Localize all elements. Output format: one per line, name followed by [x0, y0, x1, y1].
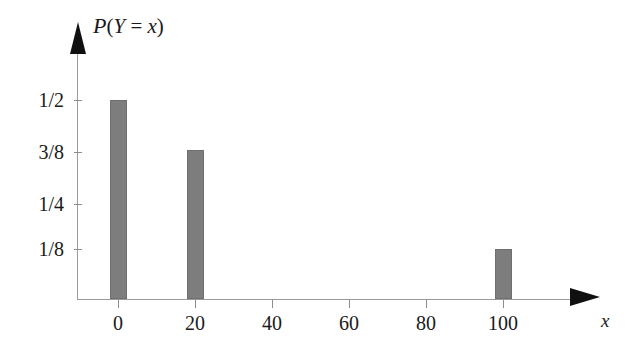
y-axis-title-script-p: P: [93, 13, 106, 38]
x-tick-label-20: 20: [165, 313, 225, 333]
y-axis-title: P(Y = x): [93, 15, 164, 37]
x-tick-label-100: 100: [473, 313, 533, 333]
y-tick-mark-1-2: [74, 100, 82, 101]
y-tick-label-1-2: 1/2: [16, 90, 64, 110]
x-tick-mark-60: [349, 300, 350, 308]
y-tick-label-3-8: 3/8: [16, 142, 64, 162]
x-tick-mark-100: [503, 300, 504, 308]
x-tick-label-0: 0: [88, 313, 148, 333]
y-axis-title-random-var: Y: [113, 14, 125, 38]
bar-x-20: [187, 150, 204, 299]
x-axis-arrow-icon: [570, 288, 600, 306]
x-tick-mark-0: [118, 300, 119, 308]
y-tick-mark-1-8: [74, 249, 82, 250]
x-tick-label-60: 60: [319, 313, 379, 333]
y-axis-title-close-paren: ): [157, 14, 164, 38]
y-tick-mark-3-8: [74, 152, 82, 153]
y-axis-arrow-icon: [70, 22, 86, 54]
y-tick-mark-1-4: [74, 204, 82, 205]
probability-mass-function-chart: P(Y = x) x 1/2 3/8 1/4 1/8 0 20 40 60 80…: [0, 0, 630, 348]
x-tick-mark-40: [272, 300, 273, 308]
y-axis-title-value-var: x: [147, 14, 156, 38]
x-tick-mark-20: [195, 300, 196, 308]
y-axis-title-equals: =: [125, 14, 147, 38]
x-tick-mark-80: [426, 300, 427, 308]
x-tick-label-80: 80: [396, 313, 456, 333]
y-axis-line: [77, 46, 78, 300]
x-tick-label-40: 40: [242, 313, 302, 333]
bar-x-0: [110, 100, 127, 299]
bar-x-100: [495, 249, 512, 299]
x-axis-title: x: [601, 311, 609, 330]
y-tick-label-1-4: 1/4: [16, 194, 64, 214]
y-tick-label-1-8: 1/8: [16, 239, 64, 259]
x-axis-line: [77, 299, 573, 300]
